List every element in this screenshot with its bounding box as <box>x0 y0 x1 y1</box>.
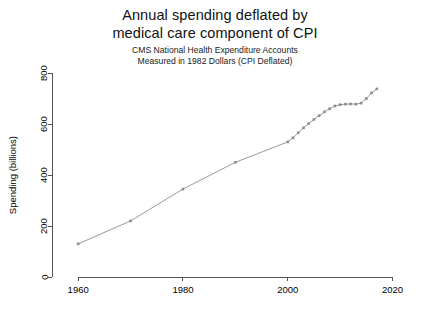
y-ticks-group: 0200400600800 <box>39 65 53 279</box>
axes-group <box>52 73 393 277</box>
data-point <box>302 127 305 130</box>
data-point <box>129 220 132 223</box>
data-point <box>292 137 295 140</box>
x-axis-tick-label: 1960 <box>68 284 89 295</box>
data-point <box>297 131 300 134</box>
y-axis-tick-label: 200 <box>39 218 50 234</box>
chart-figure: Annual spending deflated by medical care… <box>0 0 430 312</box>
data-point <box>286 141 289 144</box>
y-axis-tick-label: 400 <box>39 167 50 183</box>
data-point <box>376 88 379 91</box>
y-axis-title: Spending (billions) <box>7 136 18 214</box>
data-point <box>344 103 347 106</box>
data-point <box>182 188 185 191</box>
x-axis-tick-label: 2020 <box>382 284 403 295</box>
data-point <box>355 103 358 106</box>
data-point <box>307 122 310 125</box>
data-point <box>323 111 326 114</box>
x-axis-tick-label: 1980 <box>172 284 193 295</box>
data-point <box>339 103 342 106</box>
x-axis-tick-label: 2000 <box>277 284 298 295</box>
data-point <box>349 103 352 106</box>
data-point <box>234 161 237 164</box>
data-point <box>365 97 368 100</box>
y-axis-tick-label: 0 <box>39 274 50 279</box>
data-point <box>318 114 321 117</box>
data-point <box>77 243 80 246</box>
data-point <box>328 107 331 110</box>
chart-plot-area: 0200400600800 1960198020002020 Spending … <box>0 0 430 312</box>
axis-titles-group: Spending (billions) <box>7 136 18 214</box>
data-point <box>360 102 363 105</box>
data-series-group <box>77 88 378 246</box>
data-point <box>334 105 337 108</box>
x-ticks-group: 1960198020002020 <box>68 277 403 295</box>
data-point <box>370 92 373 95</box>
series-line <box>78 89 377 244</box>
data-point <box>313 118 316 121</box>
y-axis-tick-label: 800 <box>39 65 50 81</box>
y-axis-tick-label: 600 <box>39 116 50 132</box>
